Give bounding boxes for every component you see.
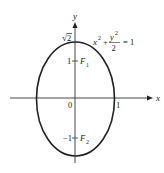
- origin-label: 0: [68, 100, 72, 110]
- tick-label-y-1: 1: [67, 56, 71, 66]
- focus-f1-sub: 1: [86, 62, 89, 68]
- tick-label-x-1: 1: [116, 100, 120, 110]
- equation-plus: +: [103, 37, 108, 47]
- y-axis-label: y: [72, 11, 77, 21]
- equation-frac-den: 2: [112, 43, 116, 53]
- tick-label-y-neg1: −1: [63, 133, 72, 143]
- ellipse-diagram: y x √ 2 x 2 + y 2 2 = 1 1 F 1 0 1 −1 F 2: [0, 0, 164, 173]
- equation-frac-num: y: [109, 32, 114, 42]
- focus-f2-sub: 2: [86, 139, 89, 145]
- x-axis-arrow-icon: [147, 96, 153, 101]
- equation-x-exp: 2: [98, 35, 101, 41]
- focus-f2-label: F: [79, 133, 86, 143]
- focus-f1-label: F: [79, 56, 86, 66]
- ellipse-curve: [37, 42, 115, 156]
- equation-x: x: [92, 37, 97, 47]
- equation-rhs: = 1: [123, 37, 134, 47]
- x-axis-label: x: [155, 93, 160, 103]
- y-axis-arrow-icon: [73, 22, 78, 28]
- equation-frac-num-exp: 2: [115, 30, 118, 36]
- sqrt2-value: 2: [67, 33, 71, 43]
